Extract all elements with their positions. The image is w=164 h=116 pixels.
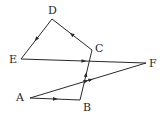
point-label-e: E — [9, 54, 17, 65]
point-label-f: F — [149, 58, 157, 69]
arrowhead-icon — [84, 72, 88, 77]
arrowhead-icon — [88, 79, 93, 82]
arrowhead-icon — [53, 97, 58, 101]
point-label-c: C — [95, 43, 103, 54]
point-label-a: A — [16, 92, 24, 103]
point-label-d: D — [48, 5, 57, 16]
vector-path-diagram — [0, 0, 164, 116]
point-label-b: B — [83, 102, 91, 113]
arrowhead-icon — [81, 59, 86, 63]
